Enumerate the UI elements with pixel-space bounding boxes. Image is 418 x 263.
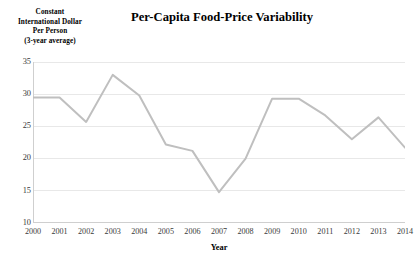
y-axis-title-line-1: Constant bbox=[2, 8, 98, 18]
y-axis-tick-label: 30 bbox=[9, 90, 31, 98]
y-axis-tick-labels: 101520253035 bbox=[5, 62, 31, 223]
gridlines bbox=[33, 62, 405, 191]
plot-svg bbox=[33, 62, 405, 223]
y-axis-title: Constant International Dollar Per Person… bbox=[2, 8, 98, 46]
data-series-line bbox=[33, 75, 405, 192]
y-axis-tick-label: 10 bbox=[9, 219, 31, 227]
x-axis-tick-label: 2014 bbox=[388, 227, 418, 236]
x-axis-title: Year bbox=[33, 243, 405, 253]
y-axis-title-line-4: (3-year average) bbox=[2, 37, 98, 47]
plot-area bbox=[33, 62, 405, 223]
axis-lines bbox=[33, 62, 405, 223]
y-axis-title-line-2: International Dollar bbox=[2, 18, 98, 28]
y-axis-tick-label: 25 bbox=[9, 122, 31, 130]
chart-title: Per-Capita Food-Price Variability bbox=[104, 10, 340, 25]
y-axis-tick-label: 35 bbox=[9, 58, 31, 66]
y-axis-title-line-3: Per Person bbox=[2, 27, 98, 37]
x-axis-tick-labels: 2000200120022003200420052006200720082009… bbox=[33, 227, 405, 239]
y-axis-tick-label: 20 bbox=[9, 154, 31, 162]
data-series-group bbox=[33, 75, 405, 192]
y-axis-tick-label: 15 bbox=[9, 187, 31, 195]
